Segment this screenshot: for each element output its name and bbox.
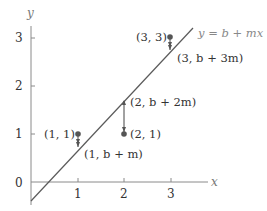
x-tick-label-3: 3 bbox=[167, 187, 175, 201]
point-label-3: (3, 3) bbox=[136, 30, 167, 44]
x-tick-label-2: 2 bbox=[120, 187, 128, 201]
line-point-label-2: (2, b + 2m) bbox=[130, 95, 196, 109]
y-tick-label-2: 2 bbox=[15, 79, 23, 93]
x-axis-label: x bbox=[211, 175, 218, 189]
line-point-label-1: (1, b + m) bbox=[84, 147, 143, 161]
y-tick-label-1: 1 bbox=[15, 127, 23, 141]
y-tick-label-3: 3 bbox=[15, 31, 23, 45]
line-point-label-3: (3, b + 3m) bbox=[177, 51, 243, 65]
data-point-2 bbox=[121, 131, 127, 137]
y-tick-label-0: 0 bbox=[15, 176, 23, 190]
data-point-3 bbox=[167, 34, 173, 40]
data-point-1 bbox=[75, 131, 81, 137]
point-label-2: (2, 1) bbox=[130, 127, 161, 141]
fit-line bbox=[31, 28, 193, 201]
line-equation-label: y = b + mx bbox=[197, 26, 264, 40]
least-squares-figure: y x 3 2 1 0 1 2 3 y = b + mx (1, 1) (1, … bbox=[0, 0, 267, 211]
y-axis-label: y bbox=[26, 6, 34, 20]
x-tick-label-1: 1 bbox=[74, 187, 82, 201]
point-label-1: (1, 1) bbox=[44, 127, 75, 141]
